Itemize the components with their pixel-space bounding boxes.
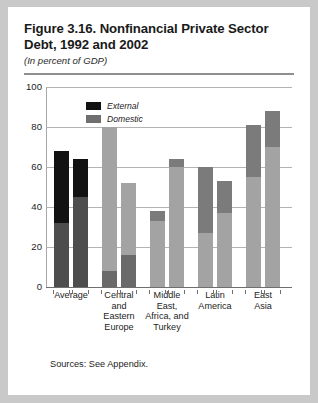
x-axis-tick (53, 290, 54, 294)
bar (54, 151, 69, 287)
bar-segment-domestic (73, 197, 88, 287)
bar (217, 181, 232, 287)
figure-title: Figure 3.16. Nonfinancial Private Sector… (24, 21, 294, 52)
x-axis-tick (261, 290, 262, 294)
bar-segment-external (169, 159, 184, 167)
x-axis-tick (168, 290, 169, 294)
y-axis-tick-20: 20 (24, 241, 42, 252)
x-axis-tick (264, 290, 265, 294)
bar-segment-external (246, 125, 261, 177)
x-axis-tick (69, 290, 70, 294)
legend-label: External (107, 101, 139, 111)
bar-segment-domestic (198, 233, 213, 287)
bar (102, 127, 117, 287)
bar-group (54, 87, 88, 287)
chart-legend: ExternalDomestic (86, 101, 143, 127)
bar (150, 211, 165, 287)
x-axis-tick (101, 290, 102, 294)
bar-segment-domestic (102, 271, 117, 287)
legend-item-domestic: Domestic (86, 114, 143, 124)
sources-note: Sources: See Appendix. (50, 359, 148, 369)
x-axis-tick (216, 290, 217, 294)
x-axis-tick (197, 290, 198, 294)
bar (169, 159, 184, 287)
y-axis-tick-100: 100 (24, 81, 42, 92)
page: Figure 3.16. Nonfinancial Private Sector… (0, 0, 318, 403)
y-axis-tick-80: 80 (24, 121, 42, 132)
x-axis-labels: AverageCentralandEasternEuropeMiddleEast… (46, 290, 292, 352)
title-rule (24, 73, 294, 75)
figure-subtitle: (In percent of GDP) (24, 55, 294, 66)
x-axis-tick (213, 290, 214, 294)
y-axis-tick-60: 60 (24, 161, 42, 172)
x-axis-label-line: East (233, 290, 293, 301)
legend-swatch-icon (86, 102, 101, 110)
x-axis-tick (245, 290, 246, 294)
bar-segment-external (73, 159, 88, 197)
bar-segment-domestic (54, 223, 69, 287)
bar-segment-external (102, 127, 117, 271)
bar-segment-external (198, 167, 213, 233)
legend-label: Domestic (107, 114, 143, 124)
bar-segment-external (150, 211, 165, 221)
bar-segment-external (121, 183, 136, 255)
bar-segment-external (265, 111, 280, 147)
figure-card: Figure 3.16. Nonfinancial Private Sector… (8, 7, 310, 395)
x-axis-label-east-asia: EastAsia (233, 290, 293, 311)
bar-segment-external (217, 181, 232, 213)
x-axis-tick (120, 290, 121, 294)
x-axis-label-line: Asia (233, 301, 293, 312)
bar (73, 159, 88, 287)
bar-segment-domestic (169, 167, 184, 287)
x-axis-label-line: Turkey (137, 322, 197, 333)
y-axis-tick-zero: 0 (24, 281, 42, 292)
legend-item-external: External (86, 101, 143, 111)
x-axis-tick (280, 290, 281, 294)
x-axis-tick (149, 290, 150, 294)
bar-segment-external (54, 151, 69, 223)
bar (121, 183, 136, 287)
x-axis-tick (72, 290, 73, 294)
x-axis-tick (117, 290, 118, 294)
bar-group (150, 87, 184, 287)
bar-series-container (46, 87, 292, 287)
bar-segment-domestic (217, 213, 232, 287)
bar-segment-domestic (265, 147, 280, 287)
y-axis-tick-40: 40 (24, 201, 42, 212)
x-axis-label-line: Africa, and (137, 311, 197, 322)
bar-segment-domestic (150, 221, 165, 287)
bar-segment-domestic (246, 177, 261, 287)
bar (265, 111, 280, 287)
bar-segment-domestic (121, 255, 136, 287)
bar-group (198, 87, 232, 287)
bar (246, 125, 261, 287)
x-axis-line (46, 287, 292, 288)
x-axis-tick (165, 290, 166, 294)
bar-group (246, 87, 280, 287)
bar (198, 167, 213, 287)
legend-swatch-icon (86, 115, 101, 123)
chart-plot-area: 20406080100 0 ExternalDomestic AverageCe… (24, 87, 294, 352)
